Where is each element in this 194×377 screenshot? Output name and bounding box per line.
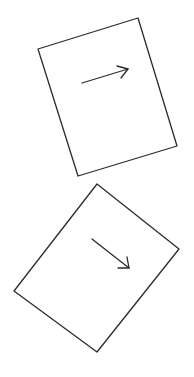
rectangle-bottom [14,184,179,352]
rectangle-top-frame [38,18,177,176]
arrow-right-icon [82,66,128,83]
rectangle-bottom-frame [14,184,179,352]
arrow-down-right-icon [92,239,129,268]
diagram-canvas [0,0,194,377]
rectangle-top [38,18,177,176]
